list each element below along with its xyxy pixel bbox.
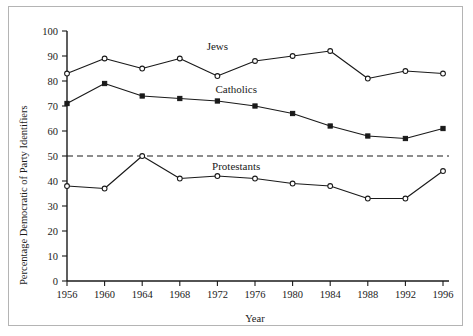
y-axis-ticks: 0102030405060708090100 (42, 26, 67, 287)
data-point-marker (253, 104, 257, 108)
data-point-marker (65, 101, 69, 105)
data-point-marker (441, 71, 446, 76)
data-point-marker (65, 184, 70, 189)
data-point-marker (102, 56, 107, 61)
series-label-protestants: Protestants (212, 160, 260, 172)
data-point-marker (441, 126, 445, 130)
series-jews (65, 49, 446, 81)
series-label-jews: Jews (207, 40, 228, 52)
y-axis-title: Percentage Democratic of Party Identifie… (18, 105, 29, 285)
y-tick-label: 0 (53, 276, 58, 287)
data-point-marker (215, 174, 220, 179)
x-tick-label: 1992 (395, 289, 416, 300)
data-point-marker (290, 181, 295, 186)
data-point-marker (366, 134, 370, 138)
data-point-marker (177, 176, 182, 181)
data-point-marker (441, 169, 446, 174)
data-point-marker (177, 56, 182, 61)
x-tick-label: 1996 (433, 289, 454, 300)
data-point-marker (328, 184, 333, 189)
chart-figure: Percentage Democratic of Party Identifie… (0, 0, 473, 336)
data-point-marker (290, 54, 295, 59)
y-tick-label: 60 (48, 126, 59, 137)
data-point-marker (253, 176, 258, 181)
x-tick-label: 1960 (94, 289, 115, 300)
data-point-marker (291, 111, 295, 115)
x-tick-label: 1980 (282, 289, 303, 300)
data-point-marker (140, 66, 145, 71)
x-tick-label: 1984 (320, 289, 342, 300)
x-tick-label: 1956 (57, 289, 78, 300)
data-point-marker (65, 71, 70, 76)
x-axis-title: Year (245, 313, 265, 324)
series-line (67, 51, 443, 79)
data-point-marker (178, 96, 182, 100)
x-tick-label: 1988 (357, 289, 378, 300)
line-chart-plot: Percentage Democratic of Party Identifie… (0, 0, 473, 336)
x-tick-label: 1968 (169, 289, 190, 300)
y-tick-label: 20 (48, 226, 59, 237)
x-axis-ticks: 1956196019641968197219761980198419881992… (57, 281, 454, 300)
y-tick-label: 30 (48, 201, 59, 212)
data-point-marker (103, 81, 107, 85)
data-point-marker (365, 76, 370, 81)
x-tick-label: 1964 (132, 289, 154, 300)
data-series-group (65, 49, 446, 201)
data-point-marker (140, 94, 144, 98)
y-tick-label: 70 (48, 101, 59, 112)
series-label-catholics: Catholics (215, 83, 257, 95)
data-point-marker (365, 196, 370, 201)
x-tick-label: 1976 (245, 289, 266, 300)
y-tick-label: 40 (48, 176, 59, 187)
data-point-marker (328, 49, 333, 54)
data-point-marker (403, 196, 408, 201)
y-tick-label: 80 (48, 76, 59, 87)
data-point-marker (215, 74, 220, 79)
x-tick-label: 1972 (207, 289, 228, 300)
y-tick-label: 100 (42, 26, 58, 37)
data-point-marker (102, 186, 107, 191)
y-tick-label: 10 (48, 251, 59, 262)
data-point-marker (215, 99, 219, 103)
data-point-marker (140, 154, 145, 159)
data-point-marker (403, 69, 408, 74)
y-tick-label: 90 (48, 51, 59, 62)
y-tick-label: 50 (48, 151, 59, 162)
data-point-marker (403, 136, 407, 140)
data-point-marker (328, 124, 332, 128)
data-point-marker (253, 59, 258, 64)
